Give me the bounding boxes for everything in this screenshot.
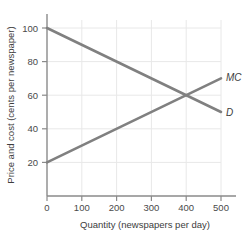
ytick-label-20: 20 <box>27 157 38 168</box>
mc-curve-label: MC <box>226 72 242 83</box>
xtick-label-200: 200 <box>109 202 125 213</box>
ytick-label-100: 100 <box>22 23 38 34</box>
xtick-label-500: 500 <box>213 202 229 213</box>
y-axis-title: Price and cost (cents per newspaper) <box>5 26 16 183</box>
xtick-label-300: 300 <box>143 202 159 213</box>
chart-figure: 100 80 60 40 20 0 100 200 300 400 500 MC… <box>0 0 250 238</box>
x-axis-title: Quantity (newspapers per day) <box>80 219 210 230</box>
ytick-label-40: 40 <box>27 123 38 134</box>
ytick-label-80: 80 <box>27 56 38 67</box>
xtick-label-100: 100 <box>74 202 90 213</box>
xtick-label-400: 400 <box>178 202 194 213</box>
d-curve-label: D <box>226 107 233 118</box>
chart-canvas: 100 80 60 40 20 0 100 200 300 400 500 MC… <box>0 0 250 238</box>
ytick-label-60: 60 <box>27 90 38 101</box>
xtick-label-0: 0 <box>44 202 49 213</box>
